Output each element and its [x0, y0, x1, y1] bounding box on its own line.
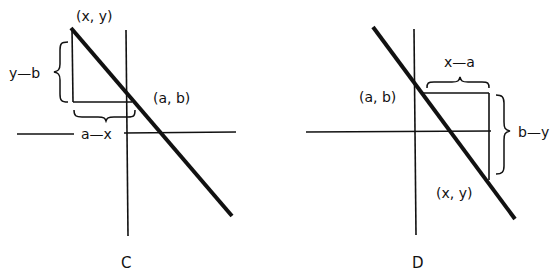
panel-d-vertical-brace [496, 95, 510, 174]
panel-c: (x, y) (a, b) y—b a—x C [9, 8, 236, 272]
panel-d-horizontal-brace [427, 77, 489, 88]
panel-c-vertical-leg [72, 28, 73, 102]
panel-d-x-axis [306, 131, 491, 132]
panel-c-caption: C [121, 254, 131, 272]
panel-c-horizontal-brace [74, 110, 135, 121]
panel-d-label-ab: (a, b) [359, 89, 396, 105]
panel-c-label-xy: (x, y) [76, 8, 112, 24]
panel-d-label-horizontal-diff: x—a [444, 54, 475, 70]
panel-c-line [71, 28, 232, 216]
panel-d-label-vertical-diff: b—y [518, 124, 549, 140]
panel-c-label-horizontal-diff: a—x [81, 126, 112, 142]
panel-c-vertical-brace [54, 42, 68, 102]
panel-c-label-ab: (a, b) [153, 90, 190, 106]
panel-c-label-vertical-diff: y—b [9, 65, 40, 81]
slope-diagram: (x, y) (a, b) y—b a—x C x—a (a, b) b—y (… [0, 0, 554, 276]
panel-d-caption: D [412, 254, 424, 272]
panel-c-x-axis-right [124, 132, 236, 133]
panel-d-label-xy: (x, y) [436, 185, 472, 201]
panel-d: x—a (a, b) b—y (x, y) D [306, 27, 549, 272]
